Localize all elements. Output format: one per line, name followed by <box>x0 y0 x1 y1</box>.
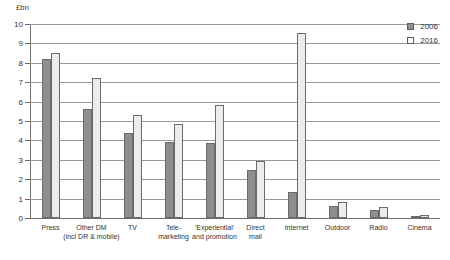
y-tick-label-3: 3 <box>19 155 23 164</box>
bar-2016 <box>133 115 142 218</box>
legend-swatch-2006 <box>407 23 414 30</box>
bar-group <box>410 24 430 218</box>
bar-2006 <box>124 133 133 218</box>
category-label-line: mail <box>226 233 286 242</box>
bar-2006 <box>83 109 92 218</box>
bar-2016 <box>174 124 183 218</box>
legend-label-2016: 2016 <box>420 36 438 45</box>
bar-2006 <box>370 210 379 218</box>
category-label: Cinema <box>390 224 450 233</box>
bar-group <box>369 24 389 218</box>
y-tick-label-1: 1 <box>19 194 23 203</box>
bars-layer <box>30 24 440 218</box>
y-tick-0 <box>25 218 30 219</box>
y-tick-label-9: 9 <box>19 39 23 48</box>
category-label-line: (incl DR & mobile) <box>62 233 122 242</box>
legend-swatch-2016 <box>407 37 414 44</box>
bar-2016 <box>420 215 429 218</box>
bar-2006 <box>165 142 174 218</box>
plot-area: 012345678910 <box>30 24 440 218</box>
legend-label-2006: 2006 <box>420 22 438 31</box>
y-tick-label-5: 5 <box>19 117 23 126</box>
y-tick-label-10: 10 <box>14 20 23 29</box>
bar-2016 <box>338 202 347 218</box>
legend-item-2016: 2016 <box>407 36 438 45</box>
bar-chart: £bn 012345678910 PressOther DM(incl DR &… <box>0 0 450 260</box>
bar-2016 <box>297 33 306 218</box>
bar-2016 <box>92 78 101 218</box>
legend-item-2006: 2006 <box>407 22 438 31</box>
y-tick-label-8: 8 <box>19 58 23 67</box>
bar-2006 <box>247 170 256 219</box>
y-axis-unit-label: £bn <box>16 3 29 12</box>
bar-2016 <box>256 161 265 218</box>
bar-group <box>123 24 143 218</box>
bar-2006 <box>411 216 420 218</box>
bar-group <box>205 24 225 218</box>
bar-2006 <box>42 59 51 218</box>
bar-2016 <box>215 105 224 218</box>
bar-2006 <box>206 143 215 218</box>
legend: 2006 2016 <box>407 22 438 45</box>
y-tick-label-7: 7 <box>19 78 23 87</box>
bar-group <box>287 24 307 218</box>
y-tick-label-0: 0 <box>19 214 23 223</box>
bar-2006 <box>288 192 297 218</box>
y-tick-label-4: 4 <box>19 136 23 145</box>
bar-group <box>164 24 184 218</box>
bar-group <box>328 24 348 218</box>
bar-group <box>82 24 102 218</box>
y-tick-label-6: 6 <box>19 97 23 106</box>
y-tick-label-2: 2 <box>19 175 23 184</box>
bar-2006 <box>329 206 338 218</box>
bar-group <box>246 24 266 218</box>
category-label-line: Cinema <box>390 224 450 233</box>
bar-2016 <box>51 53 60 218</box>
bar-group <box>41 24 61 218</box>
bar-2016 <box>379 207 388 218</box>
gridline-0 <box>30 218 440 219</box>
